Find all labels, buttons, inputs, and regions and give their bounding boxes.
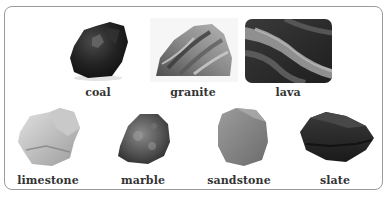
coal-label: coal bbox=[85, 86, 111, 99]
marble-label: marble bbox=[121, 174, 165, 187]
limestone-image bbox=[16, 106, 82, 168]
sandstone-image bbox=[214, 106, 270, 168]
lava-label: lava bbox=[275, 86, 300, 99]
slate-label: slate bbox=[320, 174, 350, 187]
coal-image bbox=[66, 20, 130, 82]
granite-label: granite bbox=[170, 86, 216, 99]
granite-image bbox=[150, 18, 238, 82]
marble-image bbox=[114, 110, 172, 166]
slate-image bbox=[296, 110, 376, 164]
limestone-label: limestone bbox=[17, 174, 79, 187]
lava-image bbox=[245, 19, 332, 83]
sandstone-label: sandstone bbox=[207, 174, 271, 187]
